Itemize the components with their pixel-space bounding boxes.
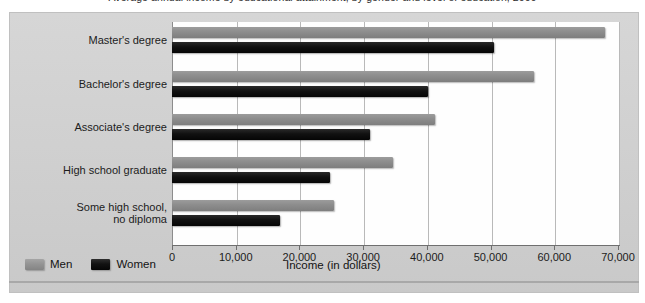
chart-legend: Men Women	[25, 258, 166, 270]
legend-label-women: Women	[116, 258, 155, 270]
x-axis-tick	[363, 246, 364, 250]
category-label-line: High school graduate	[14, 164, 167, 177]
bar-men	[172, 200, 334, 211]
category-label-line: Associate's degree	[14, 121, 167, 134]
legend-swatch-women	[91, 259, 110, 270]
bar-women	[172, 42, 494, 53]
bar-men	[172, 71, 534, 82]
x-axis-tick	[427, 246, 428, 250]
category-label: Bachelor's degree	[14, 78, 167, 91]
category-label-line: Some high school,	[14, 201, 167, 214]
x-axis-tick-label: 10,000	[219, 251, 253, 263]
chart-panel: 010,00020,00030,00040,00050,00060,00070,…	[9, 12, 639, 293]
bar-women	[172, 172, 330, 183]
x-axis-tick-label: 70,000	[601, 251, 635, 263]
x-axis-tick-label: 0	[169, 251, 175, 263]
x-axis-tick	[299, 246, 300, 250]
x-axis-tick	[172, 246, 173, 250]
gridline	[619, 22, 620, 245]
x-axis-tick	[618, 246, 619, 250]
x-axis-tick	[491, 246, 492, 250]
bar-women	[172, 215, 280, 226]
x-axis-tick-label: 60,000	[537, 251, 571, 263]
bar-men	[172, 157, 393, 168]
category-label: Master's degree	[14, 34, 167, 47]
legend-label-men: Men	[50, 258, 72, 270]
x-axis-tick-label: 50,000	[474, 251, 508, 263]
category-label: Associate's degree	[14, 121, 167, 134]
x-axis-tick	[554, 246, 555, 250]
category-label-line: Bachelor's degree	[14, 78, 167, 91]
bar-women	[172, 129, 370, 140]
legend-swatch-men	[25, 259, 44, 270]
category-label: High school graduate	[14, 164, 167, 177]
bar-men	[172, 27, 605, 38]
legend-item-women: Women	[91, 258, 155, 270]
x-axis-tick	[236, 246, 237, 250]
gridline	[428, 22, 429, 245]
category-label-line: no diploma	[14, 213, 167, 226]
gridline	[555, 22, 556, 245]
gridline	[492, 22, 493, 245]
bar-men	[172, 114, 435, 125]
category-label-line: Master's degree	[14, 34, 167, 47]
legend-item-men: Men	[25, 258, 72, 270]
bar-women	[172, 86, 428, 97]
x-axis-title: Income (in dollars)	[286, 259, 381, 271]
bottom-divider	[9, 281, 639, 283]
chart-title-strip: Average annual income by educational att…	[0, 0, 645, 11]
x-axis-tick-label: 40,000	[410, 251, 444, 263]
chart-title: Average annual income by educational att…	[108, 0, 536, 3]
category-label: Some high school,no diploma	[14, 201, 167, 226]
chart-figure: Average annual income by educational att…	[0, 0, 645, 303]
x-axis-line	[172, 245, 620, 246]
